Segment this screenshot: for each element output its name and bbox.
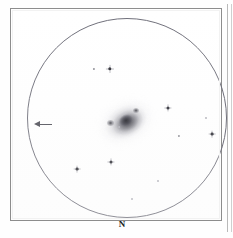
- page-rule-line-outer: [227, 4, 228, 232]
- page-rule-line-outer-secondary: [231, 4, 232, 232]
- sketch-page: N: [0, 0, 233, 238]
- chart-frame: N: [10, 8, 222, 221]
- eyepiece-field-circle: [27, 18, 227, 218]
- north-direction-label: N: [11, 219, 233, 229]
